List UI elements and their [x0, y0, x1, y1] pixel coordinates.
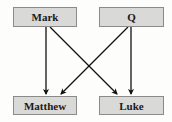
arrow-q-to-matthew [61, 27, 128, 94]
node-mark-label: Mark [32, 11, 59, 23]
node-q: Q [99, 7, 164, 27]
node-mark: Mark [13, 7, 77, 27]
arrow-mark-to-luke [50, 27, 117, 94]
node-luke-label: Luke [119, 100, 143, 112]
node-q-label: Q [127, 11, 136, 23]
node-luke: Luke [99, 96, 164, 115]
node-matthew-label: Matthew [24, 100, 66, 112]
node-matthew: Matthew [13, 96, 77, 115]
